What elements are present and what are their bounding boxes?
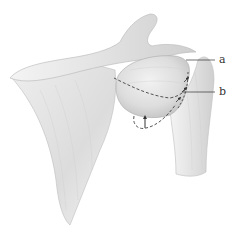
scapula (12, 62, 116, 225)
shoulder-illustration (0, 0, 237, 238)
label-b: b (219, 86, 226, 97)
label-a: a (219, 54, 226, 65)
